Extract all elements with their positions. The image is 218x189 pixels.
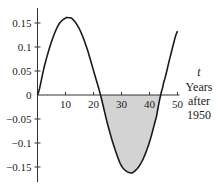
x-axis-title-line: Years: [186, 80, 213, 94]
y-tick-label: 0.15: [12, 17, 32, 29]
x-tick-label: 30: [116, 98, 128, 110]
y-tick-label: −0.15: [6, 161, 32, 173]
y-tick-label: −0.1: [12, 137, 32, 149]
y-tick-label: 0.05: [12, 65, 32, 77]
x-tick-label: 10: [60, 98, 72, 110]
x-axis-title-line: 1950: [187, 108, 211, 122]
axes: [38, 8, 180, 182]
x-tick-label: 20: [88, 98, 100, 110]
x-axis-title: tYearsafter1950: [186, 65, 213, 122]
chart: 0.150.10.050−0.05−0.1−0.15 1020304050 tY…: [0, 0, 218, 189]
x-tick-label: 40: [144, 98, 156, 110]
y-axis-ticks: 0.150.10.050−0.05−0.1−0.15: [6, 17, 40, 173]
x-tick-label: 50: [172, 98, 184, 110]
x-axis-title-line: after: [188, 94, 210, 108]
y-tick-label: −0.05: [6, 113, 32, 125]
y-tick-label: 0.1: [18, 41, 32, 53]
x-axis-title-line: t: [197, 65, 201, 79]
y-tick-label: 0: [26, 89, 32, 101]
